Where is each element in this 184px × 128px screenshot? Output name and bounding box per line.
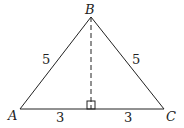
vertex-label-b: B <box>84 2 95 17</box>
side-label-ab: 5 <box>42 52 50 67</box>
vertex-label-a: A <box>7 108 17 123</box>
side-label-bc: 5 <box>132 52 140 67</box>
vertex-label-c: C <box>166 109 176 124</box>
side-label-dc: 3 <box>124 110 132 125</box>
triangle-diagram: B A C 5 5 3 3 <box>0 0 184 128</box>
side-label-ad: 3 <box>56 110 64 125</box>
